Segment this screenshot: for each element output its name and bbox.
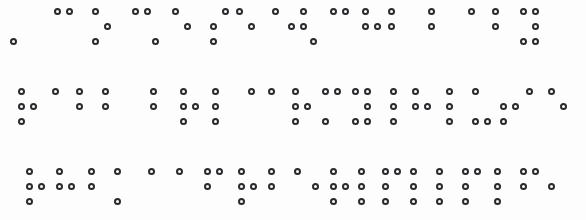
braille-dot-3	[520, 38, 527, 45]
braille-dot-3	[390, 118, 397, 125]
braille-dot-3	[292, 118, 299, 125]
braille-dot-3	[310, 38, 317, 45]
braille-dot-5	[532, 23, 539, 30]
braille-cell	[428, 8, 450, 52]
braille-dot-2	[204, 183, 211, 190]
braille-cell	[468, 8, 490, 52]
braille-cell	[520, 8, 542, 52]
braille-dot-2	[150, 103, 157, 110]
braille-dot-3	[10, 38, 17, 45]
braille-dot-5	[374, 23, 381, 30]
braille-dot-5	[424, 103, 431, 110]
braille-dot-3	[152, 38, 159, 45]
braille-cell	[92, 8, 114, 52]
braille-cell	[436, 168, 458, 212]
braille-cell	[472, 88, 494, 132]
braille-cell	[462, 168, 484, 212]
braille-dot-1	[18, 88, 25, 95]
braille-dot-6	[364, 118, 371, 125]
braille-cell	[388, 8, 410, 52]
braille-dot-1	[114, 168, 121, 175]
braille-dot-4	[334, 88, 341, 95]
braille-cell	[330, 8, 352, 52]
braille-dot-5	[364, 103, 371, 110]
braille-dot-3	[472, 118, 479, 125]
braille-dot-3	[180, 118, 187, 125]
braille-dot-1	[238, 168, 245, 175]
braille-dot-1	[180, 88, 187, 95]
braille-dot-1	[322, 88, 329, 95]
braille-dot-1	[26, 168, 33, 175]
braille-dot-3	[382, 198, 389, 205]
braille-dot-6	[484, 118, 491, 125]
braille-dot-3	[114, 198, 121, 205]
braille-cell	[238, 168, 260, 212]
braille-dot-1	[382, 168, 389, 175]
braille-dot-1	[268, 168, 275, 175]
braille-dot-2	[462, 183, 469, 190]
braille-dot-5	[512, 103, 519, 110]
braille-dot-3	[322, 118, 329, 125]
braille-cell	[76, 88, 98, 132]
braille-dot-5	[560, 103, 567, 110]
braille-dot-5	[250, 183, 257, 190]
braille-cell	[548, 168, 570, 212]
braille-cell	[492, 8, 514, 52]
braille-cell	[212, 88, 234, 132]
braille-dot-4	[342, 8, 349, 15]
braille-dot-2	[88, 183, 95, 190]
braille-cell	[54, 8, 76, 52]
braille-dot-3	[500, 118, 507, 125]
braille-cell	[382, 168, 404, 212]
braille-dot-1	[446, 88, 453, 95]
braille-dot-1	[52, 88, 59, 95]
braille-cell	[548, 88, 570, 132]
braille-dot-2	[330, 183, 337, 190]
braille-dot-1	[468, 8, 475, 15]
braille-dot-3	[26, 198, 33, 205]
braille-cell	[132, 8, 154, 52]
braille-dot-1	[352, 88, 359, 95]
braille-dot-4	[222, 8, 229, 15]
braille-cell	[126, 88, 148, 132]
braille-dot-2	[428, 23, 435, 30]
braille-cell	[412, 88, 434, 132]
braille-dot-1	[388, 8, 395, 15]
braille-dot-4	[364, 88, 371, 95]
braille-dot-2	[390, 103, 397, 110]
braille-cell	[88, 168, 110, 212]
braille-cell	[180, 88, 202, 132]
braille-dot-1	[172, 8, 179, 15]
braille-dot-1	[88, 168, 95, 175]
braille-cell	[176, 168, 198, 212]
braille-dot-2	[102, 103, 109, 110]
braille-dot-5	[184, 23, 191, 30]
braille-dot-2	[520, 183, 527, 190]
braille-dot-1	[494, 168, 501, 175]
braille-cell	[102, 88, 124, 132]
braille-dot-2	[212, 103, 219, 110]
braille-dot-3	[238, 198, 245, 205]
braille-dot-2	[412, 103, 419, 110]
braille-dot-1	[436, 168, 443, 175]
braille-dot-1	[412, 88, 419, 95]
braille-cell	[362, 8, 384, 52]
braille-dot-2	[362, 23, 369, 30]
braille-page	[0, 0, 586, 220]
braille-dot-3	[446, 118, 453, 125]
braille-cell	[390, 88, 412, 132]
braille-cell	[352, 88, 374, 132]
braille-cell	[268, 168, 290, 212]
braille-cell	[410, 168, 432, 212]
braille-dot-3	[352, 118, 359, 125]
braille-dot-3	[210, 38, 217, 45]
braille-dot-1	[148, 168, 155, 175]
braille-dot-4	[300, 8, 307, 15]
braille-dot-1	[132, 8, 139, 15]
braille-cell	[322, 88, 344, 132]
braille-dot-6	[532, 38, 539, 45]
braille-dot-1	[358, 168, 365, 175]
braille-cell	[248, 88, 270, 132]
braille-dot-1	[272, 8, 279, 15]
braille-dot-1	[76, 88, 83, 95]
